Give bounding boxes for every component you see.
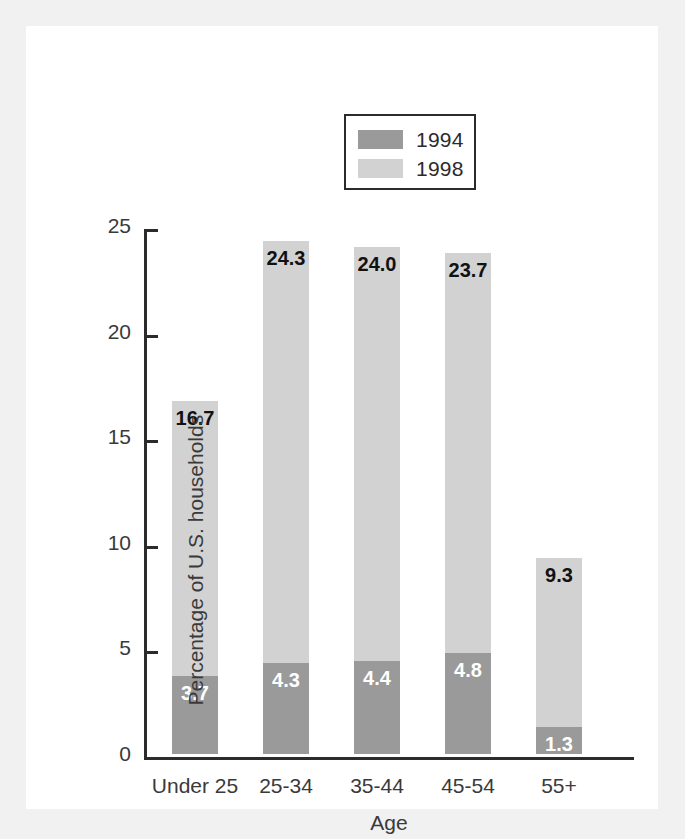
x-axis-line — [144, 757, 634, 760]
legend-swatch-1994-icon — [358, 130, 403, 149]
y-axis-tick-mark — [147, 757, 158, 760]
y-axis-tick-mark — [147, 440, 158, 443]
bar-group[interactable]: 24.34.3 — [263, 241, 309, 754]
bar-segment-1998[interactable]: 24.3 — [263, 241, 309, 663]
bar-value-label-1998: 24.3 — [263, 248, 309, 268]
y-axis-tick-label: 25 — [108, 215, 131, 236]
bar-group[interactable]: 24.04.4 — [354, 247, 400, 754]
bar-value-label-1998: 9.3 — [536, 565, 582, 585]
bar-value-label-1998: 24.0 — [354, 254, 400, 274]
y-axis-tick-mark — [147, 335, 158, 338]
x-axis-title: Age — [144, 812, 634, 833]
bar-value-label-1994: 4.4 — [354, 668, 400, 688]
bar-value-label-1994: 4.8 — [445, 660, 491, 680]
bar-segment-1994[interactable]: 4.8 — [445, 653, 491, 754]
y-axis-tick-mark — [147, 651, 158, 654]
y-axis-title: Percentage of U.S. households — [185, 436, 206, 706]
legend-label-1998: 1998 — [416, 158, 464, 179]
y-axis-line — [144, 229, 147, 760]
y-axis-tick-5: 5 — [144, 651, 158, 654]
y-axis-tick-label: 15 — [108, 426, 131, 447]
chart-legend: 1994 1998 — [344, 114, 476, 190]
y-axis-tick-label: 5 — [119, 637, 131, 658]
y-axis-tick-10: 10 — [144, 546, 158, 549]
y-axis-tick-25: 25 — [144, 229, 158, 232]
bar-group[interactable]: 9.31.3 — [536, 558, 582, 754]
legend-item-1998: 1998 — [346, 154, 474, 183]
bar-segment-1998[interactable]: 9.3 — [536, 558, 582, 727]
y-axis-tick-0: 0 — [144, 757, 158, 760]
y-axis-tick-20: 20 — [144, 335, 158, 338]
legend-label-1994: 1994 — [416, 129, 464, 150]
chart-panel: 1994 1998 0510152025 16.73.724.34.324.04… — [26, 26, 658, 809]
x-axis-tick-label: 55+ — [499, 775, 619, 796]
bar-group[interactable]: 23.74.8 — [445, 253, 491, 754]
figure-root: 1994 1998 0510152025 16.73.724.34.324.04… — [0, 0, 685, 839]
y-axis-tick-label: 10 — [108, 532, 131, 553]
bar-segment-1994[interactable]: 1.3 — [536, 727, 582, 754]
y-axis-tick-mark — [147, 546, 158, 549]
bar-segment-1994[interactable]: 4.4 — [354, 661, 400, 754]
y-axis-tick-15: 15 — [144, 440, 158, 443]
bar-value-label-1998: 23.7 — [445, 260, 491, 280]
y-axis-tick-label: 20 — [108, 321, 131, 342]
bar-value-label-1994: 4.3 — [263, 670, 309, 690]
bar-value-label-1994: 1.3 — [536, 734, 582, 754]
legend-swatch-1998-icon — [358, 159, 403, 178]
bar-segment-1998[interactable]: 24.0 — [354, 247, 400, 661]
plot-area: 0510152025 16.73.724.34.324.04.423.74.89… — [144, 229, 634, 757]
y-axis-tick-mark — [147, 229, 158, 232]
y-axis-tick-label: 0 — [119, 743, 131, 764]
bar-segment-1998[interactable]: 23.7 — [445, 253, 491, 652]
legend-item-1994: 1994 — [346, 125, 474, 154]
bar-segment-1994[interactable]: 4.3 — [263, 663, 309, 754]
